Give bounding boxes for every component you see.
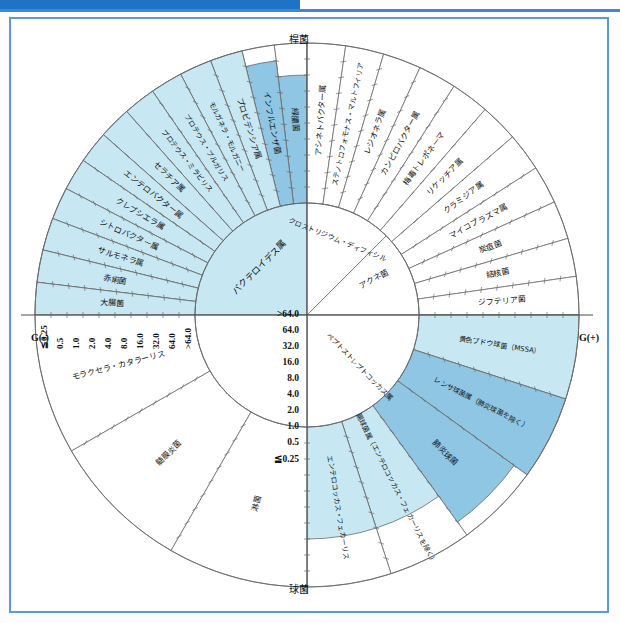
mic-tick-vertical-9: ≦0.25: [255, 453, 299, 464]
sector-label-ul-12: 大腸菌: [100, 297, 125, 308]
mic-tick-horizontal-8: 64.0: [167, 333, 177, 349]
mic-tick-vertical-5: 4.0: [255, 389, 299, 399]
mic-tick-horizontal-7: 32.0: [151, 333, 161, 349]
mic-tick-vertical-7: 1.0: [255, 421, 299, 431]
sector-label-ul-0: 緑膿菌: [290, 108, 301, 133]
mic-tick-horizontal-4: 4.0: [103, 338, 113, 349]
mic-tick-vertical-1: 64.0: [255, 325, 299, 335]
mic-tick-vertical-8: 0.5: [255, 437, 299, 447]
figure-frame: .sec-none{fill:#ffffff;stroke:#6b6b6b;st…: [9, 17, 609, 613]
mic-tick-vertical-6: 2.0: [255, 405, 299, 415]
figure-root: .sec-none{fill:#ffffff;stroke:#6b6b6b;st…: [0, 0, 620, 623]
axis-label-top: 桿菌: [289, 31, 309, 46]
mic-tick-vertical-4: 8.0: [255, 373, 299, 383]
mic-tick-horizontal-1: 0.5: [55, 338, 65, 349]
mic-tick-horizontal-6: 16.0: [135, 333, 145, 349]
window-titlebar-accent: [0, 0, 300, 9]
axis-label-bottom: 球菌: [289, 581, 309, 596]
mic-tick-horizontal-5: 8.0: [119, 338, 129, 349]
window-titlebar-underline: [0, 9, 620, 12]
mic-tick-horizontal-0: ≦0.25: [39, 325, 49, 349]
mic-tick-vertical-2: 32.0: [255, 341, 299, 351]
mic-tick-horizontal-2: 1.0: [71, 338, 81, 349]
mic-tick-horizontal-9: >64.0: [183, 328, 193, 349]
antimicrobial-spectrum-wheel: .sec-none{fill:#ffffff;stroke:#6b6b6b;st…: [11, 19, 603, 607]
mic-tick-vertical-0: >64.0: [255, 309, 299, 319]
mic-tick-vertical-3: 16.0: [255, 357, 299, 367]
mic-tick-horizontal-3: 2.0: [87, 338, 97, 349]
